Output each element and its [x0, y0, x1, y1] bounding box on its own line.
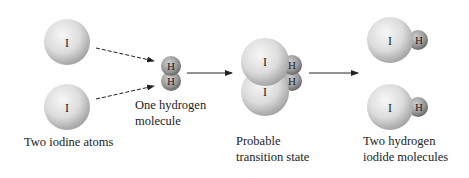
iodine-atom-top: I [44, 19, 90, 65]
hydrogen-iodide-molecule-top: I H [367, 17, 428, 63]
hydrogen-molecule: H H [161, 56, 181, 91]
svg-text:I: I [263, 85, 267, 99]
svg-text:I: I [263, 55, 267, 69]
svg-text:H: H [288, 75, 296, 87]
label-two-hydrogen-iodide: Two hydrogen iodide molecules [363, 133, 448, 165]
svg-text:I: I [65, 36, 69, 50]
transition-state-complex: I I H H [241, 38, 302, 116]
svg-text:I: I [65, 101, 69, 115]
svg-text:H: H [415, 101, 423, 113]
svg-text:H: H [288, 59, 296, 71]
svg-text:I: I [388, 34, 392, 48]
label-transition-state: Probable transition state [236, 133, 309, 165]
svg-text:H: H [167, 75, 175, 87]
dashed-arrow-top [96, 48, 154, 61]
svg-text:H: H [415, 34, 423, 46]
label-one-hydrogen-molecule: One hydrogen molecule [135, 97, 206, 129]
svg-text:H: H [167, 60, 175, 72]
reaction-diagram: I I H H I I H H [0, 0, 469, 178]
iodine-atom-bottom: I [44, 84, 90, 130]
label-two-iodine-atoms: Two iodine atoms [24, 134, 113, 150]
svg-text:I: I [388, 101, 392, 115]
hydrogen-iodide-molecule-bottom: I H [367, 84, 428, 130]
